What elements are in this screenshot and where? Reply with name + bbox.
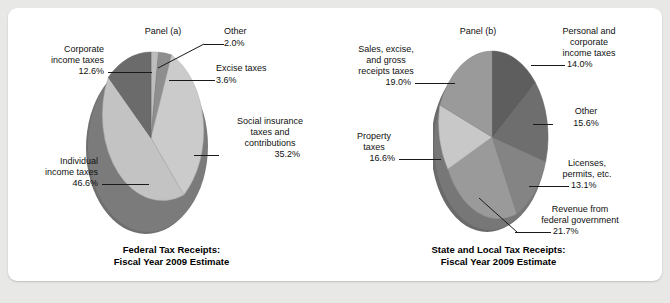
label-sales-line2: and gross (341, 55, 431, 66)
leader-other-b (533, 124, 553, 125)
label-licenses-line1: Licenses, (545, 158, 629, 169)
label-social-line3: contributions (224, 138, 316, 149)
leader-sales (415, 83, 455, 84)
label-sales-line1: Sales, excise, (341, 44, 431, 55)
panel-a-label: Panel (a) (126, 26, 200, 37)
leader-personal (531, 65, 565, 66)
caption-b-line2: Fiscal Year 2009 Estimate (335, 256, 662, 268)
label-licenses-line2: permits, etc. (545, 169, 629, 180)
label-other-b-value: 15.6% (551, 118, 621, 129)
label-other-b-line1: Other (551, 106, 621, 117)
leader-excise (169, 80, 215, 81)
leader-licenses (529, 186, 569, 187)
label-personal-line2: corporate (541, 37, 637, 48)
label-social-line2: taxes and (224, 127, 316, 138)
label-social-value: 35.2% (224, 149, 300, 160)
label-excise-value: 3.6% (216, 75, 296, 86)
caption-a-line2: Fiscal Year 2009 Estimate (8, 256, 335, 268)
leader-property (399, 159, 441, 160)
label-property-line2: taxes (335, 142, 413, 153)
label-licenses-value: 13.1% (571, 180, 631, 191)
label-property-line1: Property (335, 131, 413, 142)
caption-panel-b: State and Local Tax Receipts: Fiscal Yea… (335, 244, 662, 268)
label-other-line1: Other (224, 26, 294, 37)
label-social-line1: Social insurance (224, 116, 316, 127)
panel-b-label: Panel (b) (441, 26, 515, 37)
label-personal-value: 14.0% (567, 59, 637, 70)
label-revenue-value: 21.7% (553, 226, 623, 237)
panel-b: Panel (b) Sales, excise, and gross recei… (335, 8, 662, 281)
label-corporate-line1: Corporate (18, 44, 104, 55)
label-individual-value: 46.6% (12, 178, 98, 189)
label-sales-value: 19.0% (341, 77, 411, 88)
label-personal-line1: Personal and (541, 26, 637, 37)
caption-panel-a: Federal Tax Receipts: Fiscal Year 2009 E… (8, 244, 335, 268)
caption-a-line1: Federal Tax Receipts: (8, 244, 335, 256)
label-individual-line1: Individual (12, 156, 98, 167)
label-revenue-line1: Revenue from (523, 204, 637, 215)
label-individual-line2: income taxes (12, 167, 98, 178)
leader-individual (102, 184, 149, 185)
leader-other-diagonal (154, 42, 208, 70)
label-personal-line3: income taxes (541, 48, 637, 59)
label-other-value: 2.0% (224, 38, 294, 49)
panel-a: Panel (a) Corporate income taxes 12.6% I… (8, 8, 335, 281)
leader-corporate (108, 72, 152, 73)
figure-card: Panel (a) Corporate income taxes 12.6% I… (8, 8, 662, 281)
label-revenue-line2: federal government (523, 215, 637, 226)
label-corporate-value: 12.6% (18, 66, 104, 77)
label-sales-line3: receipts taxes (341, 66, 431, 77)
label-property-value: 16.6% (335, 153, 395, 164)
leader-revenue-diagonal (475, 194, 521, 236)
caption-b-line1: State and Local Tax Receipts: (335, 244, 662, 256)
label-excise-line1: Excise taxes (216, 63, 296, 74)
leader-social (194, 155, 219, 156)
pie-chart-federal (84, 41, 234, 236)
label-corporate-line2: income taxes (18, 55, 104, 66)
